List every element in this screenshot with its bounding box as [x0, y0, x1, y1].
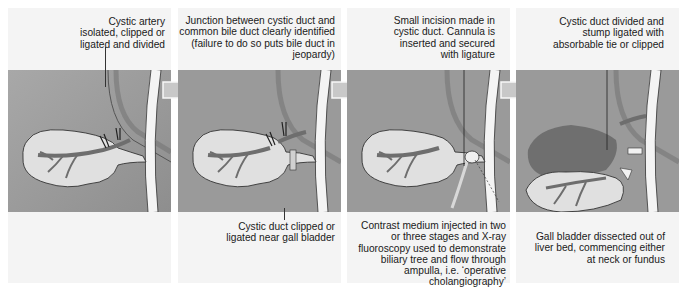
panel-2-leader-line	[284, 208, 285, 220]
panel-2-top-caption: Junction between cystic duct and common …	[175, 15, 335, 60]
panel-1-illustration	[8, 70, 171, 212]
panel-3-bottom-caption: Contrast medium injected in two or three…	[346, 220, 506, 288]
panel-4: Cystic duct divided and stump ligated wi…	[516, 8, 679, 283]
panel-2-illustration	[178, 70, 341, 212]
panel-1: Cystic artery isolated, clipped or ligat…	[8, 8, 171, 283]
panel-1-top-caption: Cystic artery isolated, clipped or ligat…	[15, 16, 165, 50]
panel-4-bottom-caption: Gall bladder dissected out of liver bed,…	[510, 231, 665, 265]
panel-1-leader-line	[105, 47, 106, 87]
panel-3-top-caption: Small incision made in cystic duct. Cann…	[345, 15, 495, 60]
panel-4-illustration	[516, 70, 679, 212]
panel-3-illustration	[347, 70, 510, 212]
panel-4-top-caption: Cystic duct divided and stump ligated wi…	[514, 16, 664, 50]
panel-3: Small incision made in cystic duct. Cann…	[347, 8, 510, 283]
panel-2: Junction between cystic duct and common …	[178, 8, 341, 283]
panel-2-bottom-caption: Cystic duct clipped or ligated near gall…	[185, 221, 335, 244]
